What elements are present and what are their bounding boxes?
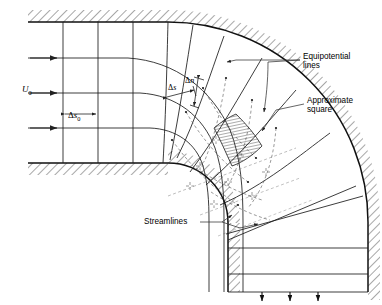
equipotential-lines-label: Equipotential lines [303,52,363,70]
approximate-square-label: Approximate square [307,96,353,114]
delta-s0-label: Δs0 [68,110,81,122]
inlet-arrows [30,58,57,128]
inlet-velocity-label: U0 [22,84,32,96]
leader-approximate-square [262,104,304,131]
delta-s-label: Δs [168,83,176,92]
equipotential-label-line2: lines [303,61,363,70]
figure-canvas: U0 Δs0 Δs Δn Equipotential lines Approxi… [0,0,382,305]
approximate-square-cell [214,114,262,166]
equipotential-4 [163,22,168,163]
approximate-label-line2: square [307,105,353,114]
outlet-arrows [262,292,318,301]
inner-wall [24,151,240,304]
equipotential-label-line1: Equipotential [303,52,363,61]
equipotential-6 [177,36,224,158]
equipotential-5 [170,25,193,160]
delta-n-label: Δn [185,76,194,85]
streamline-2 [28,93,224,292]
flow-net-diagram [0,0,382,305]
approximate-label-line1: Approximate [307,96,353,105]
streamlines-label: Streamlines [144,217,187,226]
equipotential-10 [228,186,356,240]
equipotential-15 [226,196,363,234]
